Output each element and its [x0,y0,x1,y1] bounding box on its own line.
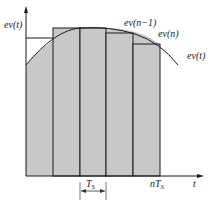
sample-rect-2 [80,28,106,176]
sample-rectangles [53,28,160,176]
sample-rect-4 [133,44,160,176]
end-time-label: nTS [150,178,165,191]
period-arrow-left [81,189,86,193]
period-label: TS [86,178,96,191]
x-axis-label: t [193,178,196,189]
x-axis-arrow [197,174,204,178]
label-ev-n-minus-1: ev(n−1) [124,17,157,29]
sample-rect-1 [53,28,80,176]
y-axis-arrow [24,6,28,13]
period-arrow-right [100,189,105,193]
curve-label: ev(t) [187,50,206,62]
y-axis-label: ev(t) [4,19,23,31]
label-ev-n: ev(n) [158,28,179,40]
sample-rect-3 [106,33,133,176]
error-sampling-diagram: ev(t) ev(n−1) ev(n) ev(t) TS nTS t [0,0,215,206]
